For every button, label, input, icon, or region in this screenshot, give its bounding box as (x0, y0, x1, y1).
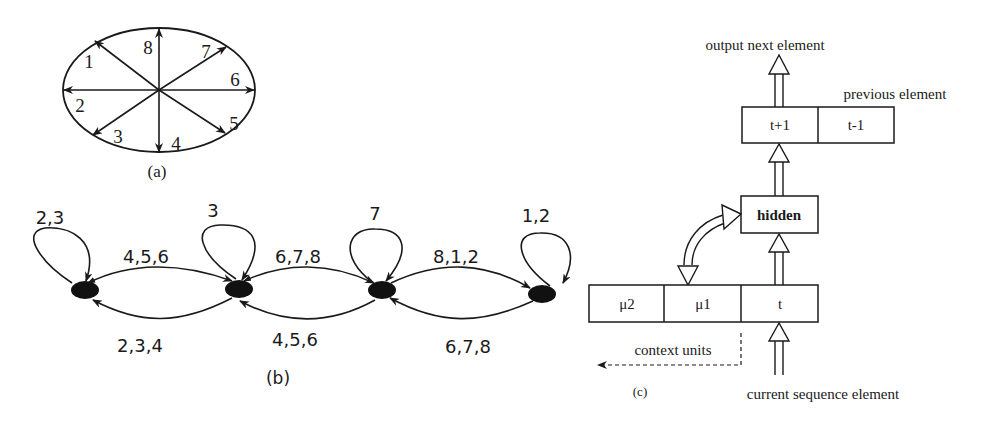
direction-5-arrow-icon (159, 90, 225, 133)
state-node-2 (225, 280, 253, 298)
direction-7-arrow-icon (159, 47, 226, 90)
state-1-loop-label: 2,3 (36, 207, 65, 228)
direction-7-label: 7 (201, 41, 211, 62)
panel-a-caption: (a) (148, 162, 167, 181)
state-node-4 (528, 285, 556, 303)
current-sequence-element-label: current sequence element (747, 386, 900, 402)
direction-5-label: 5 (229, 113, 239, 134)
previous-element-label: previous element (844, 86, 948, 102)
edge-s2-s1-backward (93, 298, 232, 319)
current-element-input-arrow-icon (769, 323, 789, 375)
direction-8-label: 8 (143, 37, 153, 58)
direction-1-label: 1 (84, 51, 94, 72)
direction-4-label: 4 (171, 133, 181, 154)
direction-3-label: 3 (113, 126, 123, 147)
state-3-loop-label: 7 (369, 203, 380, 224)
output-cell-t-plus-1: t+1 (770, 117, 790, 133)
edge-s4-s3-label: 6,7,8 (445, 336, 491, 357)
direction-2-label: 2 (75, 95, 85, 116)
edge-s1-s2-label: 4,5,6 (123, 246, 169, 267)
context-cell-mu1: μ1 (695, 296, 711, 312)
panel-c-network: output next element previous element t+1… (589, 37, 947, 402)
panel-a-direction-wheel: 1 2 3 4 5 6 7 8 (a) (63, 28, 255, 181)
edge-s3-s4-label: 8,1,2 (433, 246, 479, 267)
edge-s4-s3-backward (390, 298, 533, 319)
state-node-3 (368, 281, 396, 299)
hidden-to-output-arrow-icon (769, 144, 789, 196)
output-next-element-label: output next element (705, 37, 825, 53)
context-hidden-bidirectional-arrow-icon (678, 205, 741, 285)
input-to-hidden-arrow-icon (769, 234, 789, 285)
edge-s3-s2-backward (240, 300, 375, 319)
output-cell-t-minus-1: t-1 (848, 117, 865, 133)
state-4-self-loop-arrow (521, 233, 570, 286)
output-hollow-arrow-icon (769, 55, 789, 107)
context-cell-mu2: μ2 (619, 296, 635, 312)
edge-s2-s1-label: 2,3,4 (117, 335, 163, 356)
edge-s2-s3-forward (244, 267, 374, 283)
state-3-self-loop-arrow (350, 229, 402, 282)
direction-6-label: 6 (230, 69, 240, 90)
state-node-1 (71, 281, 99, 299)
panel-b-caption: (b) (266, 368, 290, 388)
edge-s3-s4-forward (391, 267, 530, 288)
state-1-self-loop-arrow (34, 228, 90, 283)
state-4-loop-label: 1,2 (522, 205, 551, 226)
edge-s2-s3-label: 6,7,8 (275, 246, 321, 267)
edge-s1-s2-forward (88, 267, 232, 283)
direction-3-arrow-icon (93, 90, 159, 135)
context-units-label: context units (634, 342, 711, 358)
panel-b-state-machine: 2,3 3 7 1,2 4,5,6 6,7,8 8,1,2 2,3,4 4,5,… (34, 200, 571, 388)
state-2-self-loop-arrow (202, 225, 255, 280)
hidden-label: hidden (757, 207, 802, 223)
panel-c-caption: (c) (633, 384, 647, 399)
state-2-loop-label: 3 (207, 200, 218, 221)
figure-canvas: 1 2 3 4 5 6 7 8 (a) 2,3 3 7 1,2 4 (0, 0, 1000, 425)
edge-s3-s2-label: 4,5,6 (272, 329, 318, 350)
